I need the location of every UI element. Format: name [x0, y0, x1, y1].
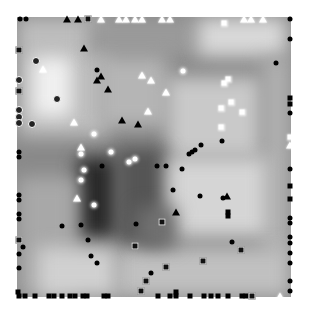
dot-black-marker [198, 194, 203, 199]
dot-white-marker [92, 132, 97, 137]
sq-ring-marker [143, 278, 150, 285]
dot-white-marker [109, 150, 114, 155]
dot-black-marker [100, 164, 105, 169]
tri-white-marker [138, 72, 146, 79]
sq-black-marker [17, 294, 22, 299]
sq-black-marker [288, 197, 293, 202]
sq-white-marker [219, 125, 224, 130]
tri-white-marker [73, 195, 81, 202]
sq-black-marker [226, 294, 231, 299]
tri-white-marker [39, 66, 47, 73]
sq-black-marker [226, 214, 231, 219]
tri-white-marker [158, 16, 166, 23]
sq-black-marker [168, 294, 173, 299]
dot-black-marker [155, 164, 160, 169]
dot-black-marker [187, 152, 192, 157]
dot-black-marker [17, 252, 22, 257]
dot-black-marker [89, 254, 94, 259]
sq-black-marker [156, 294, 161, 299]
dot-black-marker [288, 17, 293, 22]
dot-black-marker [288, 261, 293, 266]
dot-black-marker [288, 289, 293, 294]
dot-white-marker [133, 157, 138, 162]
dot-ring-marker [53, 95, 61, 103]
sq-ring-marker [238, 247, 245, 254]
dot-black-marker [21, 245, 26, 250]
sq-black-marker [33, 294, 38, 299]
dot-black-marker [274, 61, 279, 66]
tri-black-marker [223, 193, 231, 200]
dot-black-marker [199, 143, 204, 148]
sq-black-marker [209, 294, 214, 299]
sq-black-marker [73, 294, 78, 299]
sq-ring-marker [16, 237, 23, 244]
sq-ring-marker [16, 47, 23, 54]
dot-black-marker [288, 167, 293, 172]
dot-white-marker [79, 152, 84, 157]
dot-black-marker [288, 251, 293, 256]
dot-white-marker [92, 203, 97, 208]
sq-ring-marker [138, 288, 145, 295]
tri-white-marker [138, 16, 146, 23]
dot-black-marker [149, 271, 154, 276]
dot-black-marker [79, 223, 84, 228]
dot-ring-marker [15, 76, 23, 84]
dot-black-marker [18, 17, 23, 22]
sq-black-marker [60, 294, 65, 299]
sq-black-marker [288, 96, 293, 101]
sq-black-marker [188, 294, 193, 299]
sq-white-marker [222, 21, 227, 26]
dot-ring-marker [15, 119, 23, 127]
tri-white-marker [166, 16, 174, 23]
tri-white-marker [286, 142, 294, 149]
sq-white-marker [288, 135, 293, 140]
dot-black-marker [288, 241, 293, 246]
sq-black-marker [23, 294, 28, 299]
dot-black-marker [17, 198, 22, 203]
sq-black-marker [85, 294, 90, 299]
dot-black-marker [60, 224, 65, 229]
dot-black-marker [288, 111, 293, 116]
sq-ring-marker [159, 219, 166, 226]
sq-ring-marker [249, 293, 256, 300]
dot-black-marker [17, 266, 22, 271]
tri-black-marker [134, 121, 142, 128]
tri-black-marker [80, 45, 88, 52]
tri-black-marker [172, 209, 180, 216]
tri-white-marker [259, 16, 267, 23]
sq-black-marker [216, 294, 221, 299]
dot-black-marker [24, 17, 29, 22]
dot-black-marker [134, 222, 139, 227]
sq-black-marker [288, 102, 293, 107]
dot-black-marker [164, 164, 169, 169]
tri-black-marker [104, 86, 112, 93]
sq-white-marker [240, 110, 245, 115]
dot-ring-marker [28, 120, 36, 128]
sq-white-marker [229, 100, 234, 105]
tri-black-marker [93, 77, 101, 84]
marker-layer [0, 0, 309, 313]
tri-white-marker [97, 16, 105, 23]
sq-ring-marker [200, 258, 207, 265]
sq-white-marker [219, 106, 224, 111]
tri-white-marker [162, 89, 170, 96]
sq-black-marker [52, 294, 57, 299]
dot-black-marker [17, 155, 22, 160]
dot-white-marker [79, 178, 84, 183]
sq-ring-marker [163, 264, 170, 271]
sq-ring-marker [85, 16, 92, 23]
tri-white-marker [247, 16, 255, 23]
dot-black-marker [17, 217, 22, 222]
tri-black-marker [118, 117, 126, 124]
dot-black-marker [95, 261, 100, 266]
dot-black-marker [288, 235, 293, 240]
dot-black-marker [230, 240, 235, 245]
tri-white-marker [147, 77, 155, 84]
dot-black-marker [180, 167, 185, 172]
sq-black-marker [174, 294, 179, 299]
sq-black-marker [202, 294, 207, 299]
dot-white-marker [82, 168, 87, 173]
dot-black-marker [86, 238, 91, 243]
dot-black-marker [220, 139, 225, 144]
dot-white-marker [181, 69, 186, 74]
